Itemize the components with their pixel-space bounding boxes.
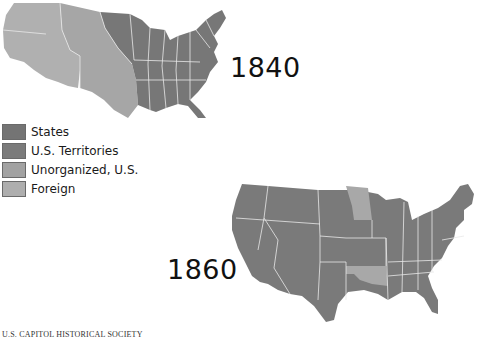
legend-swatch-foreign bbox=[2, 181, 26, 197]
legend-item-foreign: Foreign bbox=[2, 179, 138, 198]
map-1860 bbox=[228, 180, 486, 330]
legend-swatch-territories bbox=[2, 143, 26, 159]
map-legend: States U.S. Territories Unorganized, U.S… bbox=[2, 122, 138, 198]
legend-item-states: States bbox=[2, 122, 138, 141]
map-1840 bbox=[0, 0, 230, 120]
legend-label: U.S. Territories bbox=[31, 144, 118, 158]
year-label-1860: 1860 bbox=[167, 254, 238, 285]
legend-label: Unorganized, U.S. bbox=[31, 163, 138, 177]
legend-swatch-states bbox=[2, 124, 26, 140]
legend-swatch-unorganized bbox=[2, 162, 26, 178]
credit-text: U.S. CAPITOL HISTORICAL SOCIETY bbox=[2, 330, 143, 339]
legend-item-territories: U.S. Territories bbox=[2, 141, 138, 160]
legend-label: Foreign bbox=[31, 182, 75, 196]
legend-label: States bbox=[31, 125, 69, 139]
legend-item-unorganized: Unorganized, U.S. bbox=[2, 160, 138, 179]
year-label-1840: 1840 bbox=[230, 52, 301, 83]
